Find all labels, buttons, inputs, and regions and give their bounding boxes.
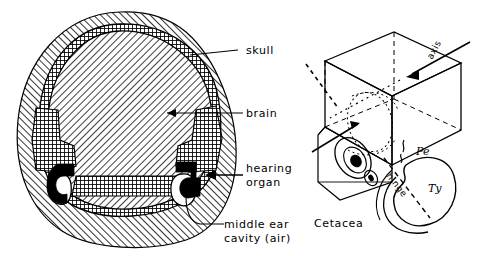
label-middle-ear-line1: middle ear xyxy=(224,218,289,231)
inner-cavity-dotted xyxy=(341,88,398,157)
foramen-small xyxy=(362,168,380,188)
tympanic-bulla xyxy=(376,157,455,233)
panel-cetacea-3d: axis hinge Pe Ty Cetacea xyxy=(306,32,470,233)
hinge-line xyxy=(384,158,430,218)
label-hearing-organ-line2: organ xyxy=(246,176,281,189)
panel-skull-cross-section: skull brain hearing organ middle ear cav… xyxy=(17,12,292,248)
label-periotic: Pe xyxy=(415,145,430,158)
caption-cetacea: Cetacea xyxy=(314,217,363,230)
ear-complex-left xyxy=(47,164,74,204)
box-solid-edges xyxy=(325,32,461,165)
anatomical-figure: skull brain hearing organ middle ear cav… xyxy=(0,0,481,256)
label-skull: skull xyxy=(246,44,274,57)
label-brain: brain xyxy=(246,107,277,120)
figure-canvas: skull brain hearing organ middle ear cav… xyxy=(0,0,481,256)
region-basicranium-band xyxy=(72,176,182,196)
label-middle-ear-line2: cavity (air) xyxy=(224,232,291,245)
label-hearing-organ-line1: hearing xyxy=(246,162,292,175)
label-tympanic: Ty xyxy=(428,182,442,195)
